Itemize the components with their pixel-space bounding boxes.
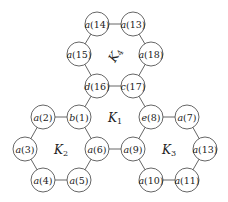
node-label: a(6) [87, 144, 106, 155]
node-n4: a(4) [31, 168, 55, 192]
node-label: e(8) [141, 112, 160, 123]
node-n17: c(17) [121, 74, 146, 98]
node-n11: a(11) [174, 168, 199, 192]
node-n10: a(10) [138, 168, 163, 192]
node-n5: a(5) [67, 168, 91, 192]
node-n3: a(3) [13, 137, 37, 161]
node-label: a(7) [177, 112, 196, 123]
node-label: a(13) [120, 19, 145, 30]
region-label-K4: K4 [105, 45, 125, 65]
node-label: a(11) [174, 175, 199, 186]
edges-layer [25, 24, 205, 180]
node-label: c(17) [121, 81, 146, 92]
region-label-K1: K1 [107, 111, 122, 126]
node-label: a(10) [138, 175, 163, 186]
node-n14: a(14) [84, 12, 109, 36]
region-label-K2: K2 [53, 143, 68, 158]
node-label: a(15) [66, 49, 91, 60]
node-n9: a(9) [121, 137, 145, 161]
node-n13a: a(13) [120, 12, 145, 36]
node-label: a(5) [69, 175, 88, 186]
node-n16: d(16) [84, 74, 110, 98]
node-label: a(4) [33, 175, 52, 186]
node-label: b(1) [69, 112, 89, 123]
node-n8: e(8) [139, 105, 163, 129]
node-label: d(16) [84, 81, 110, 92]
node-n18: a(18) [138, 42, 163, 66]
node-label: a(13) [192, 144, 217, 155]
node-label: a(18) [138, 49, 163, 60]
node-n1: b(1) [67, 105, 91, 129]
node-n13b: a(13) [192, 137, 217, 161]
node-label: a(14) [84, 19, 109, 30]
region-label-K3: K3 [161, 143, 176, 158]
nodes-layer: a(14)a(13)a(15)a(18)d(16)c(17)a(2)b(1)a(… [13, 12, 218, 192]
node-n6: a(6) [85, 137, 109, 161]
node-label: a(9) [123, 144, 142, 155]
node-n15: a(15) [66, 42, 91, 66]
graph-diagram: a(14)a(13)a(15)a(18)d(16)c(17)a(2)b(1)a(… [0, 0, 228, 202]
node-n7: a(7) [175, 105, 199, 129]
node-label: a(3) [15, 144, 34, 155]
node-n2: a(2) [31, 105, 55, 129]
node-label: a(2) [33, 112, 52, 123]
